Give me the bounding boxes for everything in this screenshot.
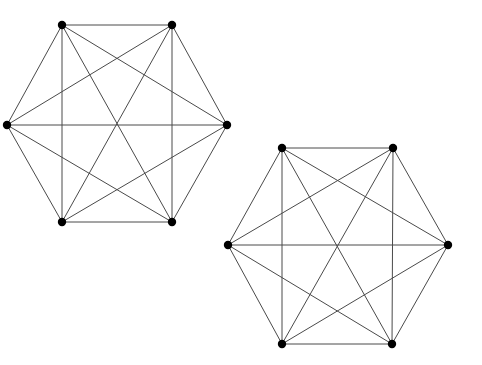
graph-edge: [7, 25, 62, 125]
graph-vertex: [3, 121, 11, 129]
graph-vertex: [278, 144, 286, 152]
graph-vertex: [278, 340, 286, 348]
graph-vertex: [223, 121, 231, 129]
edges-layer: [7, 25, 448, 344]
graph-vertex: [388, 340, 396, 348]
graph-edge: [282, 245, 448, 344]
graph-edge: [62, 125, 227, 222]
vertices-layer: [3, 21, 452, 348]
graph-edge: [228, 245, 392, 344]
graph-edge: [7, 125, 172, 222]
graph-vertex: [389, 144, 397, 152]
graph-edge: [228, 148, 393, 245]
graph-edge: [7, 25, 172, 125]
figure-root: [0, 0, 482, 365]
graph-edge: [7, 125, 62, 222]
graph-edges-graph-left: [7, 25, 227, 222]
graph-vertex: [224, 241, 232, 249]
graph-edge: [393, 148, 448, 245]
graph-edge: [172, 25, 227, 125]
graph-vertex: [168, 21, 176, 29]
graph-edge: [172, 125, 227, 222]
graph-vertex: [168, 218, 176, 226]
graph-vertex: [58, 21, 66, 29]
graph-edges-graph-right: [228, 148, 448, 344]
graph-vertex: [444, 241, 452, 249]
graph-edge: [228, 245, 282, 344]
graph-edge: [392, 148, 393, 344]
graph-edge: [228, 148, 282, 245]
graph-diagram-canvas: [0, 0, 482, 365]
graph-vertex: [58, 218, 66, 226]
graph-edge: [392, 245, 448, 344]
